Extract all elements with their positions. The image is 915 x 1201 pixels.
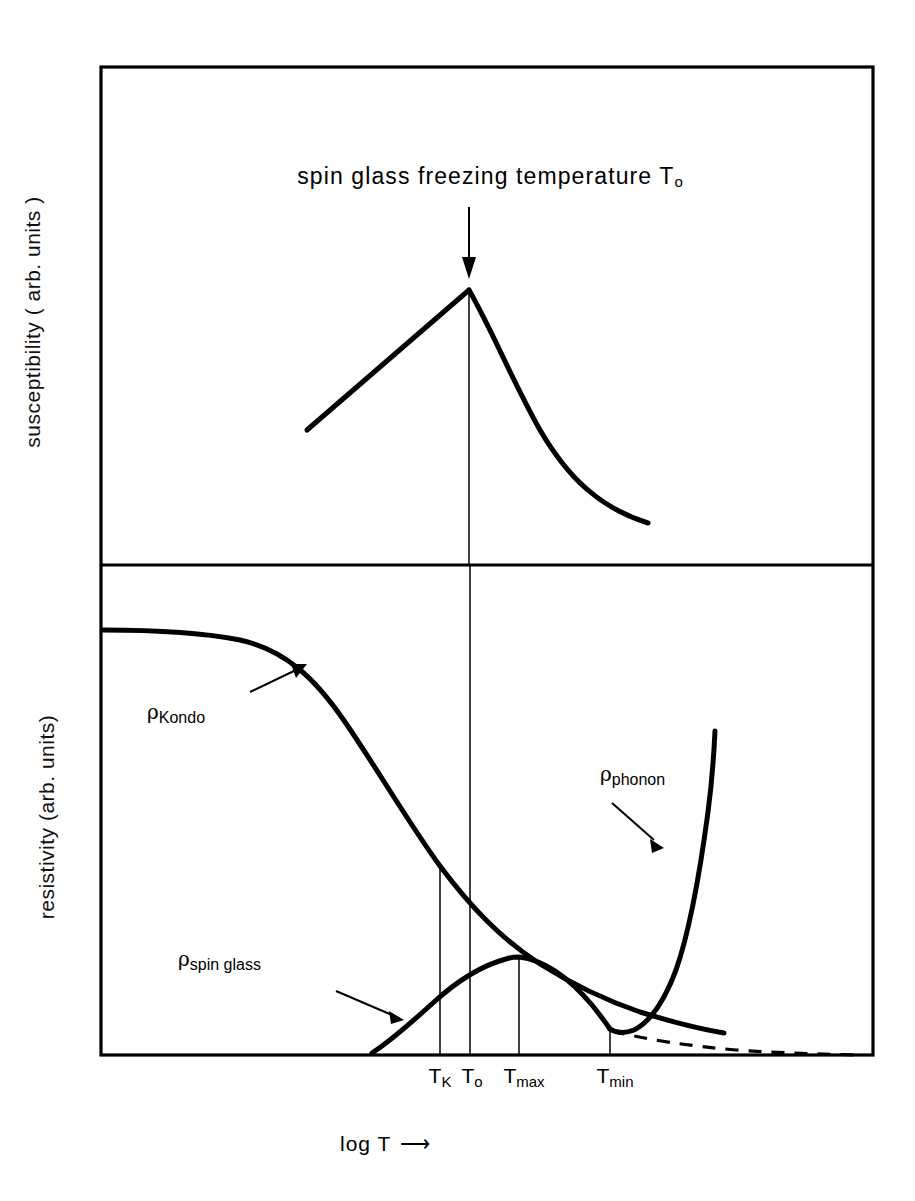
- tick-label-to-base: T: [461, 1064, 474, 1087]
- tick-label-tmin-base: T: [597, 1064, 610, 1087]
- rho-symbol-kondo: ρ: [147, 700, 159, 724]
- susceptibility-rising-branch: [307, 290, 469, 430]
- tick-label-tk-sub: K: [441, 1073, 451, 1090]
- title-text: spin glass freezing temperature: [297, 163, 652, 189]
- plot-frame: [101, 67, 873, 1055]
- curve-label-rho-phonon: ρphonon: [600, 762, 665, 789]
- x-axis-label: log T⟶: [340, 1132, 430, 1156]
- tick-label-to-sub: o: [474, 1073, 482, 1090]
- tick-label-to: To: [461, 1064, 482, 1090]
- tick-label-tk-base: T: [429, 1064, 442, 1087]
- figure-spin-glass-resistivity-susceptibility: spin glass freezing temperature To susce…: [0, 0, 915, 1201]
- tick-label-tmin-sub: min: [609, 1073, 633, 1090]
- curve-label-rho-kondo: ρKondo: [147, 700, 205, 727]
- tick-label-tmin: Tmin: [597, 1064, 634, 1090]
- tick-label-tmax: Tmax: [503, 1064, 544, 1090]
- phonon-arrow-shaft: [612, 803, 654, 840]
- spin-glass-arrow-shaft: [336, 991, 392, 1015]
- title-symbol-subscript: o: [674, 173, 682, 190]
- y-axis-label-resistivity: resistivity (arb. units): [35, 652, 59, 982]
- rho-subscript-spin-glass: spin glass: [190, 956, 261, 973]
- title-symbol: T: [659, 163, 674, 189]
- tick-label-tk: TK: [429, 1064, 452, 1090]
- x-axis-label-text: log T: [340, 1132, 391, 1155]
- susceptibility-falling-branch: [469, 290, 648, 523]
- rho-spin-glass-curve: [372, 957, 610, 1053]
- rho-subscript-kondo: Kondo: [159, 709, 205, 726]
- rho-symbol-spin-glass: ρ: [178, 947, 190, 971]
- curve-label-rho-spin-glass: ρspin glass: [178, 947, 261, 974]
- kondo-arrow-shaft: [250, 670, 296, 692]
- x-axis-arrow-icon: ⟶: [400, 1132, 430, 1156]
- tick-label-tmax-sub: max: [516, 1073, 544, 1090]
- y-axis-label-susceptibility: susceptibility ( arb. units ): [21, 157, 45, 487]
- tick-label-tmax-base: T: [503, 1064, 516, 1087]
- rho-subscript-phonon: phonon: [612, 771, 665, 788]
- page-title: spin glass freezing temperature To: [180, 163, 800, 190]
- phonon-arrow-head: [650, 839, 664, 853]
- rho-phonon-dashed-extrapolation: [612, 1031, 860, 1055]
- title-arrow-head: [462, 257, 476, 279]
- rho-symbol-phonon: ρ: [600, 762, 612, 786]
- spin-glass-arrow-head: [389, 1011, 404, 1024]
